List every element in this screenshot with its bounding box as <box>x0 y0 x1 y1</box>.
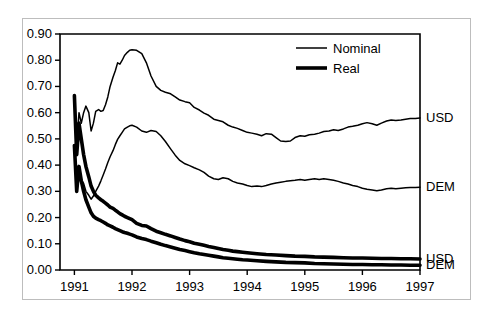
y-tick-label: 0.60 <box>10 106 52 119</box>
x-tick-label: 1991 <box>51 280 97 293</box>
legend-label-nominal: Nominal <box>333 42 381 55</box>
x-tick-label: 1992 <box>109 280 155 293</box>
x-tick-label: 1995 <box>282 280 328 293</box>
y-tick-label: 0.70 <box>10 79 52 92</box>
y-tick-label: 0.40 <box>10 158 52 171</box>
y-tick-label: 0.10 <box>10 237 52 250</box>
chart-figure: 0.000.100.200.300.400.500.600.700.800.90… <box>0 0 494 315</box>
x-tick-label: 1997 <box>397 280 443 293</box>
series-end-label-usd: USD <box>426 111 453 124</box>
y-tick-label: 0.20 <box>10 211 52 224</box>
y-tick-label: 0.50 <box>10 132 52 145</box>
x-tick-label: 1994 <box>224 280 270 293</box>
legend-sample-lines <box>296 48 327 68</box>
axis-tick-marks <box>55 34 420 275</box>
y-tick-label: 0.00 <box>10 263 52 276</box>
y-tick-label: 0.80 <box>10 53 52 66</box>
series-end-label-dem: DEM <box>426 258 455 271</box>
axis-frame <box>60 34 420 270</box>
data-series-group <box>74 50 420 266</box>
y-tick-label: 0.90 <box>10 27 52 40</box>
line-chart-plot <box>0 0 494 315</box>
y-tick-label: 0.30 <box>10 184 52 197</box>
x-tick-label: 1996 <box>339 280 385 293</box>
x-tick-label: 1993 <box>167 280 213 293</box>
series-end-label-dem: DEM <box>426 180 455 193</box>
legend-label-real: Real <box>333 62 360 75</box>
